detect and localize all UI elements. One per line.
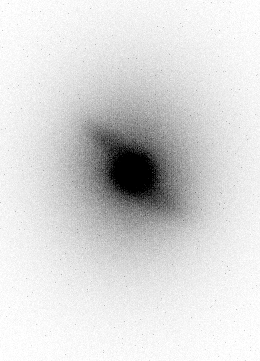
astronomical-image-viewport: [0, 0, 260, 361]
galaxy-image: [0, 0, 260, 361]
